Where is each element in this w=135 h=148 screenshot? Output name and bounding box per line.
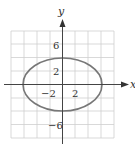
y-axis-label: y	[57, 5, 65, 18]
tick-label-y-neg6: −6	[48, 120, 63, 131]
ellipse-graph: x y 6 2 −6 −2 2	[0, 0, 135, 148]
tick-label-x-neg2: −2	[41, 88, 56, 99]
tick-label-x-2: 2	[72, 88, 78, 99]
x-axis-arrow-icon	[121, 82, 129, 88]
x-axis-label: x	[130, 78, 135, 91]
y-axis-arrow-icon	[60, 19, 66, 27]
tick-label-y-6: 6	[53, 40, 59, 51]
tick-label-y-2: 2	[53, 66, 59, 77]
